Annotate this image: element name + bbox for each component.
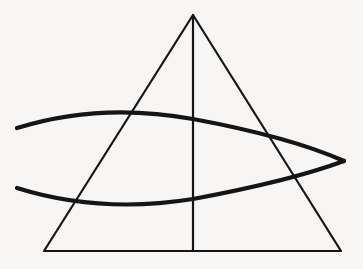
figure-canvas — [0, 0, 363, 269]
figure-drawing — [0, 0, 363, 269]
figure-background — [0, 0, 363, 269]
